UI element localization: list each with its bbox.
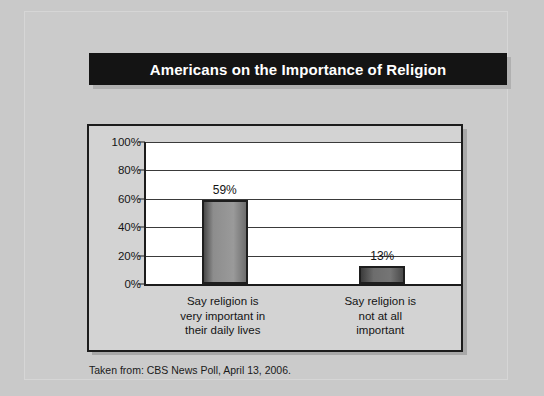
gridline [146, 227, 461, 228]
y-axis-tick-label: 60% [95, 193, 141, 205]
y-axis-tick-mark [138, 198, 145, 199]
bar-value-label: 59% [213, 183, 237, 197]
y-axis-tick-label: 20% [95, 250, 141, 262]
page-title: Americans on the Importance of Religion [150, 61, 446, 78]
x-axis-category-label: Say religion is not at all important [344, 294, 416, 338]
y-axis: 0%20%40%60%80%100% [89, 126, 141, 350]
y-axis-tick-mark [138, 227, 145, 228]
plot-area: 59%13% [144, 142, 461, 286]
chart-panel: 0%20%40%60%80%100% 59%13% Say religion i… [87, 124, 463, 352]
gridline [146, 170, 461, 171]
y-axis-tick-mark [138, 284, 145, 285]
slide-body: Americans on the Importance of Religion … [25, 12, 507, 379]
y-axis-tick-label: 100% [95, 136, 141, 148]
gridline [146, 142, 461, 143]
y-axis-tick-mark [138, 142, 145, 143]
y-axis-tick-label: 80% [95, 164, 141, 176]
bar [202, 200, 248, 284]
y-axis-tick-label: 0% [95, 278, 141, 290]
gridline [146, 256, 461, 257]
x-axis-category-label: Say religion is very important in their … [180, 294, 265, 338]
title-bar: Americans on the Importance of Religion [89, 53, 507, 85]
y-axis-tick-mark [138, 255, 145, 256]
slide: Americans on the Importance of Religion … [0, 0, 544, 396]
bar-value-label: 13% [370, 249, 394, 263]
source-note: Taken from: CBS News Poll, April 13, 200… [89, 364, 291, 376]
y-axis-tick-label: 40% [95, 221, 141, 233]
y-axis-tick-mark [138, 170, 145, 171]
gridline [146, 199, 461, 200]
bar [359, 266, 405, 284]
